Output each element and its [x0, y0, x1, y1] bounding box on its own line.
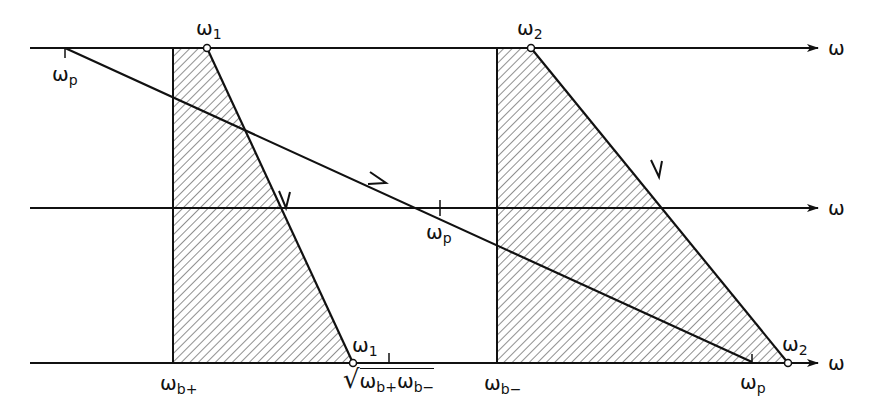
point-bot-omega2: [785, 360, 792, 367]
label-sub: p: [69, 72, 78, 88]
label-base: ω: [484, 371, 501, 395]
label-sub: p: [757, 380, 766, 396]
label-sub: 1: [369, 343, 378, 359]
label-sub: 1: [213, 26, 222, 42]
radical-sign: √: [343, 364, 360, 394]
label-base: ω: [52, 62, 69, 86]
label-base: ω: [352, 333, 369, 357]
radicand-b-sub: b−: [414, 379, 435, 395]
axis-bottom-label: ω: [828, 353, 845, 373]
label-top-omega2: ω2: [517, 18, 543, 41]
axis-middle-label: ω: [828, 198, 845, 218]
label-sub: b+: [177, 381, 198, 397]
label-bot-omega1: ω1: [352, 335, 378, 358]
label-top-omegap: ωp: [52, 64, 78, 87]
radicand: ωb+ωb−: [360, 368, 435, 394]
label-bot-omega2: ω2: [782, 334, 808, 357]
label-omega-bminus: ωb−: [484, 373, 521, 396]
label-sqrt-product: √ωb+ωb−: [343, 366, 434, 394]
label-sub: p: [443, 230, 452, 246]
label-base: ω: [782, 332, 799, 356]
label-sub: b−: [501, 381, 522, 397]
label-base: ω: [426, 220, 443, 244]
radicand-a-sub: b+: [376, 379, 397, 395]
omega-p-direction-arrow: [368, 172, 386, 184]
label-sub: 2: [534, 26, 543, 42]
axis-top-label: ω: [828, 38, 845, 58]
label-omega-bplus: ωb+: [160, 373, 197, 396]
point-top-omega2: [528, 45, 535, 52]
hatched-region-1: [173, 48, 353, 363]
label-base: ω: [160, 371, 177, 395]
label-base: ω: [740, 370, 757, 394]
radicand-b: ω: [397, 369, 414, 393]
label-sub: 2: [799, 342, 808, 358]
label-mid-omegap: ωp: [426, 222, 452, 245]
hatched-region-2: [497, 48, 788, 363]
radicand-a: ω: [360, 369, 377, 393]
label-top-omega1: ω1: [196, 18, 222, 41]
label-base: ω: [517, 16, 534, 40]
label-base: ω: [196, 16, 213, 40]
omega2-direction-arrow: [651, 160, 662, 177]
label-bot-omegap: ωp: [740, 372, 766, 395]
point-top-omega1: [204, 45, 211, 52]
